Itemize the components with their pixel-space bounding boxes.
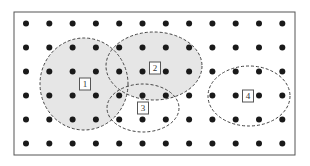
grid-dot bbox=[93, 69, 99, 75]
grid-dot bbox=[23, 69, 29, 75]
grid-dot bbox=[116, 117, 122, 123]
grid-dot bbox=[279, 141, 285, 147]
grid-dot bbox=[70, 45, 76, 51]
grid-dot bbox=[233, 21, 239, 27]
grid-dot bbox=[23, 93, 29, 99]
grid-dot bbox=[256, 141, 262, 147]
grid-dot bbox=[116, 141, 122, 147]
grid-dot bbox=[209, 141, 215, 147]
grid-dot bbox=[140, 141, 146, 147]
grid-dot bbox=[163, 141, 169, 147]
grid-dot bbox=[279, 93, 285, 99]
region-label-3: 3 bbox=[138, 102, 149, 114]
grid-dot bbox=[209, 21, 215, 27]
grid-dot bbox=[233, 93, 239, 99]
label-text: 1 bbox=[83, 79, 88, 89]
grid-dot bbox=[93, 45, 99, 51]
grid-dot bbox=[186, 141, 192, 147]
grid-dot bbox=[163, 117, 169, 123]
grid-dot bbox=[140, 45, 146, 51]
region-label-4: 4 bbox=[243, 90, 254, 102]
grid-dot bbox=[279, 45, 285, 51]
grid-dot bbox=[93, 93, 99, 99]
grid-dot bbox=[186, 93, 192, 99]
grid-dot bbox=[116, 21, 122, 27]
grid-dot bbox=[70, 69, 76, 75]
grid-dot bbox=[186, 21, 192, 27]
grid-dot bbox=[140, 21, 146, 27]
label-text: 3 bbox=[141, 103, 146, 113]
label-text: 2 bbox=[153, 63, 158, 73]
grid-dot bbox=[163, 45, 169, 51]
grid-dot bbox=[163, 69, 169, 75]
grid-dot bbox=[140, 117, 146, 123]
grid-dot bbox=[233, 117, 239, 123]
dot-grid-diagram: 1234 bbox=[0, 0, 310, 166]
grid-dot bbox=[46, 21, 52, 27]
grid-dot bbox=[46, 69, 52, 75]
grid-dot bbox=[23, 21, 29, 27]
grid-dot bbox=[46, 141, 52, 147]
grid-dot bbox=[279, 117, 285, 123]
grid-dot bbox=[256, 69, 262, 75]
grid-dot bbox=[186, 45, 192, 51]
label-text: 4 bbox=[246, 91, 251, 101]
grid-dot bbox=[70, 117, 76, 123]
grid-dot bbox=[70, 21, 76, 27]
grid-dot bbox=[70, 93, 76, 99]
grid-dot bbox=[140, 69, 146, 75]
grid-dot bbox=[23, 141, 29, 147]
grid-dot bbox=[116, 69, 122, 75]
grid-dot bbox=[186, 117, 192, 123]
grid-dot bbox=[116, 45, 122, 51]
region-label-1: 1 bbox=[80, 78, 91, 90]
grid-dot bbox=[93, 117, 99, 123]
grid-dot bbox=[93, 141, 99, 147]
grid-dot bbox=[256, 21, 262, 27]
grid-dot bbox=[140, 93, 146, 99]
grid-dot bbox=[70, 141, 76, 147]
grid-dot bbox=[163, 21, 169, 27]
grid-dot bbox=[116, 93, 122, 99]
region-label-2: 2 bbox=[150, 62, 161, 74]
grid-dot bbox=[256, 45, 262, 51]
grid-dot bbox=[279, 69, 285, 75]
grid-dot bbox=[209, 93, 215, 99]
grid-dot bbox=[93, 21, 99, 27]
grid-dot bbox=[46, 93, 52, 99]
grid-dot bbox=[23, 117, 29, 123]
grid-dot bbox=[186, 69, 192, 75]
grid-dot bbox=[209, 69, 215, 75]
grid-dot bbox=[163, 93, 169, 99]
grid-dot bbox=[209, 117, 215, 123]
grid-dot bbox=[256, 93, 262, 99]
grid-dot bbox=[279, 21, 285, 27]
grid-dot bbox=[46, 117, 52, 123]
grid-dot bbox=[23, 45, 29, 51]
grid-dot bbox=[233, 141, 239, 147]
grid-dot bbox=[46, 45, 52, 51]
grid-dot bbox=[233, 69, 239, 75]
grid-dot bbox=[256, 117, 262, 123]
grid-dot bbox=[209, 45, 215, 51]
grid-dot bbox=[233, 45, 239, 51]
